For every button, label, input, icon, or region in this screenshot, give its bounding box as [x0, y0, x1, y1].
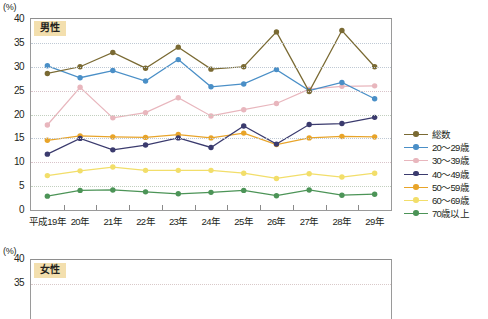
data-point: [241, 130, 246, 135]
legend-label: 30〜39歳: [432, 154, 469, 167]
y-tick-female-35: 35: [2, 277, 24, 288]
x-tick: [195, 205, 196, 210]
data-point: [143, 142, 148, 147]
legend-label: 総数: [432, 128, 451, 141]
x-tick: [64, 205, 65, 210]
female-panel-badge: 女性: [34, 263, 66, 278]
y-tick-15: 15: [2, 132, 24, 143]
legend-label: 20〜29歳: [432, 141, 469, 154]
data-point: [241, 188, 246, 193]
x-tick: [358, 205, 359, 210]
data-point: [208, 145, 213, 150]
data-point: [306, 122, 311, 127]
legend-marker-icon: [413, 171, 419, 177]
data-point: [110, 50, 115, 55]
data-point: [372, 96, 377, 101]
gridline-20: [31, 115, 391, 116]
data-point: [306, 171, 311, 176]
data-point: [77, 188, 82, 193]
y-tick-female-40: 40: [2, 253, 24, 264]
data-point: [45, 151, 50, 156]
data-point: [208, 84, 213, 89]
gridline-10: [31, 162, 391, 163]
data-point: [274, 193, 279, 198]
data-point: [208, 168, 213, 173]
data-point: [45, 71, 50, 76]
x-tick: [96, 205, 97, 210]
legend-label: 60〜69歳: [432, 194, 469, 207]
data-point: [306, 187, 311, 192]
legend-marker-icon: [413, 144, 419, 150]
data-point: [241, 171, 246, 176]
data-point: [274, 29, 279, 34]
gridline-35-female: [31, 284, 391, 285]
data-point: [176, 168, 181, 173]
data-point: [274, 141, 279, 146]
gridline-25: [31, 91, 391, 92]
data-point: [339, 80, 344, 85]
data-point: [176, 191, 181, 196]
legend-marker-icon: [413, 210, 419, 216]
legend-label: 50〜59歳: [432, 181, 469, 194]
gridline-30: [31, 67, 391, 68]
data-point: [110, 187, 115, 192]
data-point: [241, 123, 246, 128]
female-plot-area: [30, 259, 392, 319]
data-point: [143, 168, 148, 173]
data-point: [45, 193, 50, 198]
legend-marker-icon: [413, 158, 419, 164]
y-tick-25: 25: [2, 85, 24, 96]
data-point: [208, 190, 213, 195]
legend-label: 70歳以上: [432, 207, 469, 220]
data-point: [339, 121, 344, 126]
data-point: [339, 174, 344, 179]
y-tick-30: 30: [2, 61, 24, 72]
female-chart: (%) 女性 4035: [0, 246, 488, 300]
male-plot-area: [30, 18, 392, 211]
data-point: [45, 173, 50, 178]
data-point: [45, 122, 50, 127]
male-panel-badge: 男性: [34, 21, 66, 36]
x-tick: [260, 205, 261, 210]
legend-marker-icon: [413, 197, 419, 203]
data-point: [372, 171, 377, 176]
data-point: [241, 107, 246, 112]
data-point: [241, 81, 246, 86]
x-tick: [129, 205, 130, 210]
series-line-総数: [47, 30, 374, 91]
data-point: [77, 168, 82, 173]
gridline-5: [31, 186, 391, 187]
gridline-15: [31, 138, 391, 139]
gridline-35: [31, 43, 391, 44]
x-tick: [227, 205, 228, 210]
series-line-20〜29歳: [47, 60, 374, 99]
data-point: [110, 115, 115, 120]
x-label-10: 29年: [349, 214, 401, 228]
data-point: [77, 75, 82, 80]
y-axis-unit-label: (%): [3, 2, 16, 12]
data-point: [110, 164, 115, 169]
y-tick-10: 10: [2, 156, 24, 167]
x-tick: [293, 205, 294, 210]
data-point: [274, 101, 279, 106]
legend-label: 40〜49歳: [432, 168, 469, 181]
legend-marker-icon: [413, 131, 419, 137]
data-point: [110, 147, 115, 152]
data-point: [143, 189, 148, 194]
data-point: [339, 28, 344, 33]
data-point: [372, 192, 377, 197]
x-tick: [326, 205, 327, 210]
y-tick-20: 20: [2, 109, 24, 120]
data-point: [176, 44, 181, 49]
y-tick-5: 5: [2, 180, 24, 191]
data-point: [176, 57, 181, 62]
x-tick: [162, 205, 163, 210]
data-point: [372, 83, 377, 88]
data-point: [143, 78, 148, 83]
y-tick-35: 35: [2, 37, 24, 48]
data-point: [176, 95, 181, 100]
legend-marker-icon: [413, 184, 419, 190]
y-tick-40: 40: [2, 13, 24, 24]
male-chart: (%) 男性 4035302520151050平成19年20年21年22年23年…: [0, 0, 488, 240]
